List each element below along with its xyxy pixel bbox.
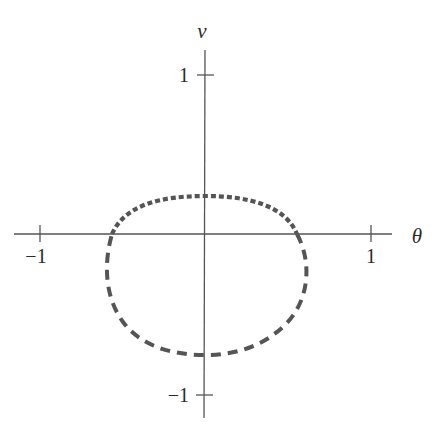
phase-plot: v θ −1 1 1 −1 <box>0 0 445 439</box>
x-tick-label-neg1: −1 <box>25 245 46 267</box>
v-axis-label: v <box>197 19 207 43</box>
x-tick-label-pos1: 1 <box>366 245 376 267</box>
v-axis <box>204 50 205 418</box>
orbit-curve-bottom <box>107 234 307 355</box>
y-tick-label-pos1: 1 <box>179 64 189 86</box>
y-tick-label-neg1: −1 <box>168 384 189 406</box>
theta-axis-label: θ <box>412 224 422 248</box>
